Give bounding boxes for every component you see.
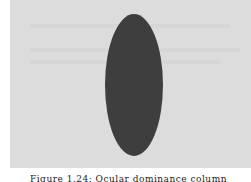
dark-ellipse <box>105 14 163 156</box>
figure-caption: Figure 1.24: Ocular dominance column <box>30 173 240 182</box>
figure-panel <box>10 0 251 168</box>
